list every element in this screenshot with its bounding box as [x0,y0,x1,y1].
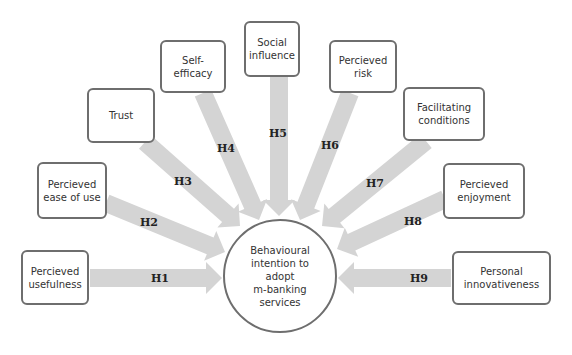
box-personal-innovativeness: Personal innovativeness [452,251,551,305]
hypothesis-label-h9: H9 [410,272,428,285]
hypothesis-label-h6: H6 [321,139,339,152]
center-behavioural-intention: Behavioural intention to adopt m-banking… [223,219,337,333]
block-arrow-h5 [263,77,295,216]
hypothesis-label-h8: H8 [404,215,422,228]
box-percieved-ease-of-use: Percieved ease of use [37,162,107,219]
box-social-influence: Social influence [244,21,300,77]
hypothesis-label-h5: H5 [269,127,287,140]
box-percieved-risk: Percieved risk [329,40,397,93]
box-percieved-usefulness: Percieved usefulness [21,250,89,305]
block-arrow-h9 [338,262,451,294]
hypothesis-label-h3: H3 [174,175,192,188]
hypothesis-label-h7: H7 [366,177,384,190]
box-self-efficacy: Self-efficacy [160,40,226,93]
hypothesis-label-h2: H2 [140,216,158,229]
box-facilitating-conditions: Facilitating conditions [403,87,485,141]
box-percieved-enjoyment: Percieved enjoyment [443,163,525,219]
hypothesis-label-h1: H1 [151,272,169,285]
hypothesis-label-h4: H4 [217,142,235,155]
box-trust: Trust [87,88,155,143]
